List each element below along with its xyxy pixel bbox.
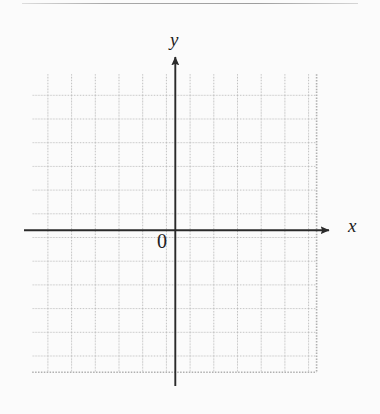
figure-canvas: y x 0 [0,0,380,414]
y-axis-label: y [170,30,178,49]
x-axis-label: x [348,216,356,235]
origin-label: 0 [157,231,167,251]
coordinate-plane [0,0,380,414]
